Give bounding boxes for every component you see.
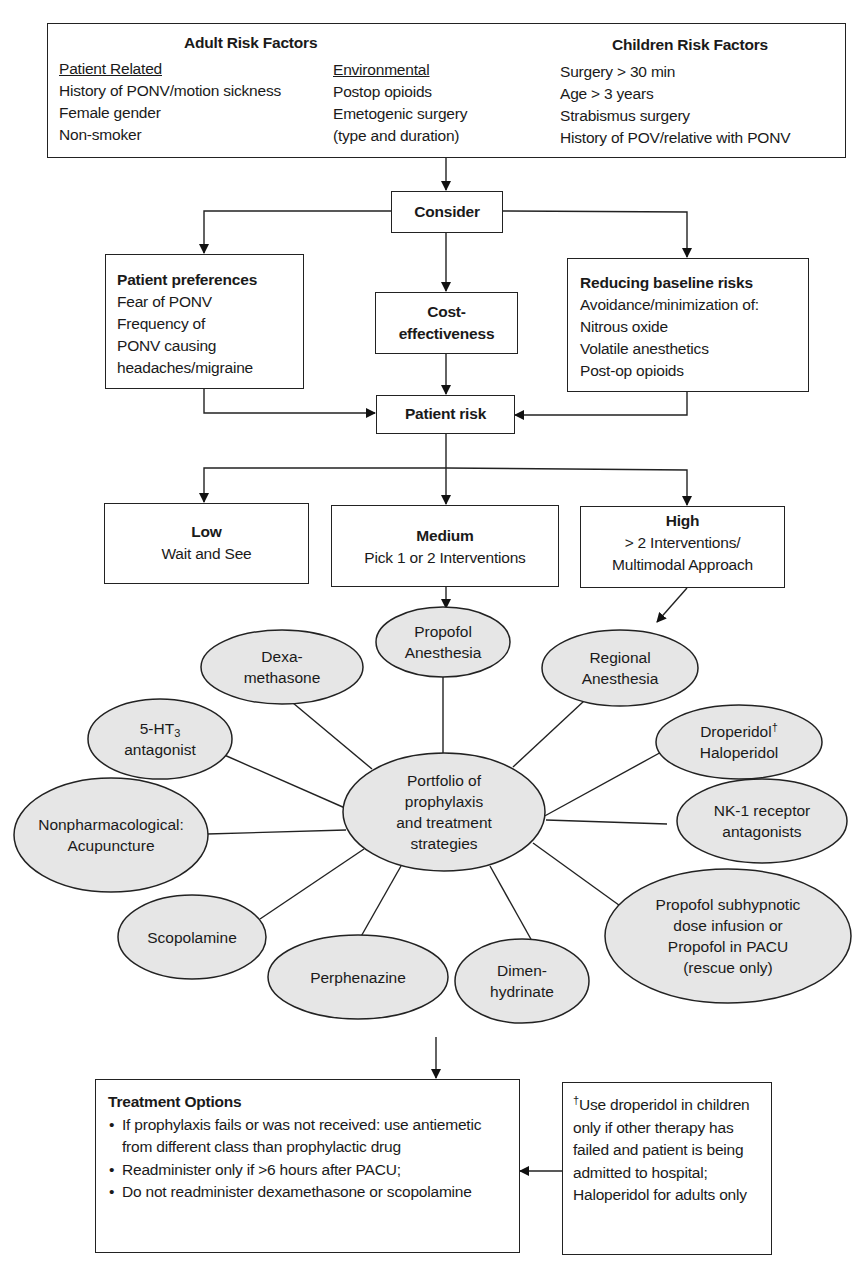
node-line: strategies	[396, 833, 492, 854]
node-line: methasone	[244, 667, 321, 688]
node-line: hydrinate	[490, 981, 554, 1002]
node-line: dose infusion or	[656, 915, 801, 936]
node-line: Propofol	[405, 621, 482, 642]
node-line: Droperidol†	[700, 721, 778, 742]
node-line: Dimen-	[490, 960, 554, 981]
dagger-mark: †	[772, 721, 778, 733]
droperidol-label: Droperidol	[700, 723, 772, 740]
node-line: Acupuncture	[38, 835, 184, 856]
node-line: prophylaxis	[396, 791, 492, 812]
treatment-bullet: Readminister only if >6 hours after PACU…	[108, 1159, 509, 1182]
ht3-prefix: 5-HT	[140, 720, 174, 737]
footnote-text: Use droperidol in children only if other…	[573, 1096, 749, 1203]
treatment-bullet: Do not readminister dexamethasone or sco…	[108, 1181, 509, 1204]
node-line: antagonist	[124, 739, 196, 760]
node-line: Scopolamine	[147, 927, 237, 948]
node-line: antagonists	[714, 821, 810, 842]
treatment-options-title: Treatment Options	[108, 1091, 509, 1114]
treatment-options-list: If prophylaxis fails or was not received…	[108, 1114, 509, 1204]
node-propofol-anesthesia: PropofolAnesthesia	[376, 607, 510, 677]
node-line: Anesthesia	[405, 642, 482, 663]
ht3-subscript: 3	[174, 727, 180, 739]
node-propofol-subhypnotic: Propofol subhypnoticdose infusion orProp…	[605, 869, 851, 1003]
node-line: Propofol in PACU	[656, 936, 801, 957]
node-line: Propofol subhypnotic	[656, 894, 801, 915]
node-line: (rescue only)	[656, 957, 801, 978]
node-line: Anesthesia	[582, 668, 659, 689]
node-line: NK-1 receptor	[714, 800, 810, 821]
droperidol-footnote-box: †Use droperidol in children only if othe…	[562, 1082, 772, 1255]
node-dexamethasone: Dexa-methasone	[201, 630, 363, 704]
node-line: Perphenazine	[310, 967, 406, 988]
node-regional-anesthesia: RegionalAnesthesia	[542, 630, 698, 706]
node-line: Haloperidol	[700, 742, 778, 763]
node-perphenazine: Perphenazine	[268, 935, 448, 1019]
node-nk1-antagonists: NK-1 receptorantagonists	[677, 779, 847, 863]
node-portfolio-center: Portfolio ofprophylaxisand treatmentstra…	[343, 753, 545, 871]
node-dimenhydrinate: Dimen-hydrinate	[455, 939, 589, 1023]
node-line: Portfolio of	[396, 770, 492, 791]
node-scopolamine: Scopolamine	[118, 895, 266, 979]
node-5ht3-antagonist: 5-HT3 antagonist	[88, 699, 232, 779]
node-line: and treatment	[396, 812, 492, 833]
treatment-options-box: Treatment Options If prophylaxis fails o…	[95, 1079, 520, 1253]
node-nonpharmacological: Nonpharmacological:Acupuncture	[14, 778, 208, 892]
treatment-bullet: If prophylaxis fails or was not received…	[108, 1114, 509, 1159]
node-line: Regional	[582, 647, 659, 668]
node-line: Nonpharmacological:	[38, 814, 184, 835]
node-droperidol-haloperidol: Droperidol† Haloperidol	[656, 705, 822, 779]
node-line: 5-HT3	[124, 718, 196, 739]
node-line: Dexa-	[244, 646, 321, 667]
